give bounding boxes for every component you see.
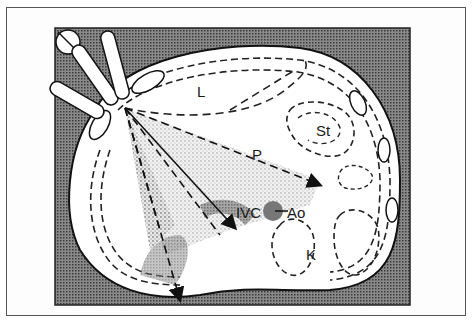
label-pancreas: P — [252, 146, 262, 163]
label-ivc: IVC — [236, 204, 261, 221]
label-stomach: St — [316, 122, 331, 139]
label-aorta: Ao — [287, 204, 305, 221]
label-liver: L — [197, 83, 205, 100]
anatomy-diagram: L P St IVC Ao K — [0, 0, 474, 325]
label-kidney: K — [306, 246, 316, 263]
